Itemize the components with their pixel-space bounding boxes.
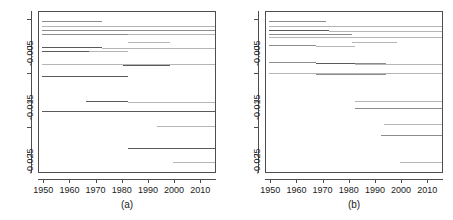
trend-segment: [381, 135, 443, 136]
trend-segment: [352, 42, 397, 43]
x-axis-tick: [270, 179, 271, 183]
trend-segment: [102, 48, 216, 49]
trend-segment: [42, 76, 128, 77]
trend-segment: [42, 51, 89, 52]
y-axis-tick: [254, 73, 258, 74]
trend-segment: [128, 148, 216, 149]
panel-caption: (b): [265, 199, 443, 210]
trend-segment: [89, 51, 128, 52]
trend-segment: [355, 108, 443, 109]
x-axis-tick: [200, 179, 201, 183]
x-axis-tick: [174, 179, 175, 183]
y-axis-tick-label: -0.015: [252, 95, 262, 121]
y-axis-tick: [27, 19, 31, 20]
y-axis-tick: [27, 127, 31, 128]
x-axis-tick: [296, 179, 297, 183]
trend-segment: [42, 34, 128, 35]
x-axis-tick: [122, 179, 123, 183]
panel-caption: (a): [38, 199, 216, 210]
x-axis-line: [38, 179, 216, 180]
plot-area-a: [38, 11, 216, 173]
x-axis-tick: [375, 179, 376, 183]
x-axis-tick: [69, 179, 70, 183]
panel-a: 1950196019701980199020002010-0.025-0.015…: [0, 0, 226, 220]
trend-segment: [42, 26, 216, 27]
trend-segment: [355, 101, 443, 102]
x-axis-tick: [427, 179, 428, 183]
trend-segment: [329, 31, 443, 32]
trend-segment: [86, 101, 128, 102]
y-axis-tick-label: -0.025: [25, 149, 35, 175]
trend-segment: [128, 42, 170, 43]
trend-segment: [316, 46, 355, 47]
trend-segment: [269, 34, 353, 35]
trend-segment: [269, 26, 443, 27]
x-axis-tick: [96, 179, 97, 183]
trend-segment: [42, 47, 102, 48]
trend-segment: [42, 21, 102, 22]
trend-segment: [173, 162, 217, 163]
y-axis-tick-label: -0.015: [25, 95, 35, 121]
y-axis-tick-label: -0.005: [25, 41, 35, 67]
trend-segment: [42, 30, 216, 31]
trend-segment: [131, 65, 170, 66]
plot-area-b: [265, 11, 443, 173]
x-axis-line: [265, 179, 443, 180]
x-axis-tick-label: 2010: [184, 185, 216, 195]
x-axis-tick: [401, 179, 402, 183]
trend-segment: [269, 21, 327, 22]
x-axis-tick: [43, 179, 44, 183]
x-axis-tick: [148, 179, 149, 183]
trend-segment: [128, 34, 216, 35]
trend-segment: [42, 111, 216, 112]
y-axis-tick: [254, 19, 258, 20]
trend-segment: [128, 102, 216, 103]
trend-segment: [316, 74, 387, 75]
trend-segment: [400, 162, 444, 163]
y-axis-tick-label: -0.005: [252, 41, 262, 67]
trend-segment: [157, 126, 216, 127]
y-axis-tick: [254, 127, 258, 128]
trend-segment: [384, 124, 443, 125]
y-axis-tick: [27, 73, 31, 74]
x-axis-tick: [323, 179, 324, 183]
trend-segment: [355, 64, 443, 65]
trend-segment: [269, 45, 316, 46]
figure-root: 1950196019701980199020002010-0.025-0.015…: [0, 0, 453, 220]
y-axis-tick-label: -0.025: [252, 149, 262, 175]
trend-segment: [269, 30, 329, 31]
panel-b: 1950196019701980199020002010-0.025-0.015…: [226, 0, 453, 220]
trend-segment: [316, 63, 355, 64]
x-axis-tick: [349, 179, 350, 183]
trend-segment: [269, 62, 316, 63]
trend-segment: [269, 37, 443, 38]
x-axis-tick-label: 2010: [411, 185, 443, 195]
